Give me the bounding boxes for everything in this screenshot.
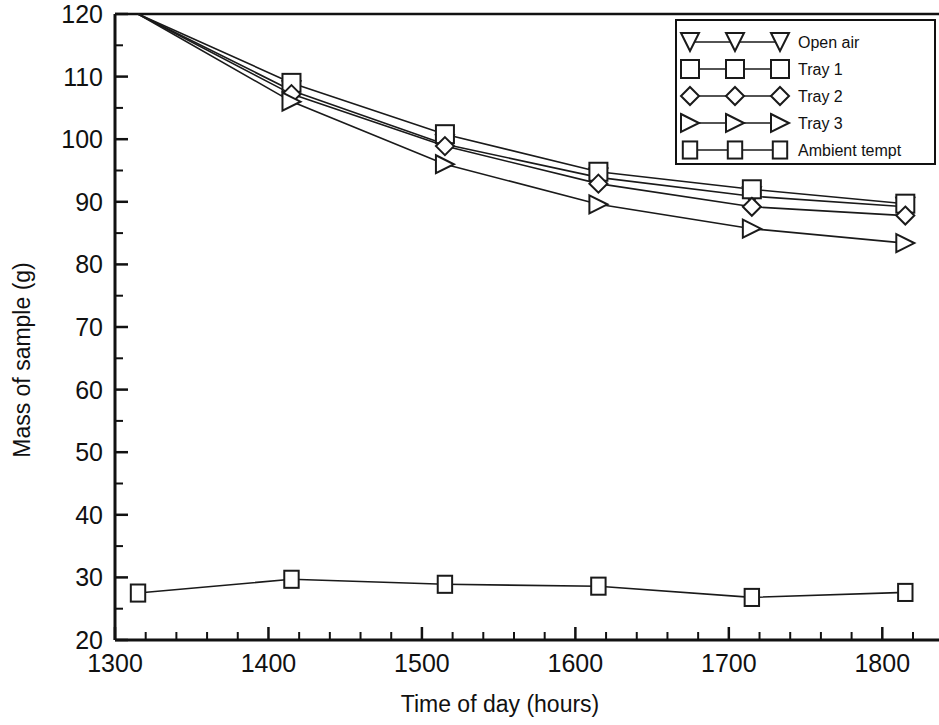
data-point-diamond — [743, 198, 761, 216]
y-tick-label: 40 — [75, 501, 103, 529]
data-point-triangle-right — [743, 220, 761, 238]
data-point-square — [771, 60, 789, 78]
legend-label: Ambient tempt — [798, 142, 902, 159]
y-axis-title: Mass of sample (g) — [9, 262, 35, 458]
data-point-square-small — [683, 141, 697, 158]
legend-label: Open air — [798, 34, 860, 51]
x-tick-label: 1600 — [548, 649, 604, 677]
data-point-square-small — [284, 571, 298, 588]
data-point-square-small — [898, 584, 912, 601]
y-tick-label: 80 — [75, 250, 103, 278]
data-point-square-small — [591, 578, 605, 595]
x-tick-label: 1800 — [854, 649, 910, 677]
data-point-square-small — [438, 576, 452, 593]
legend: Open airTray 1Tray 2Tray 3Ambient tempt — [676, 20, 935, 164]
data-point-square — [726, 60, 744, 78]
y-tick-label: 70 — [75, 313, 103, 341]
chart-container: 2030405060708090100110120130014001500160… — [0, 0, 939, 725]
legend-label: Tray 2 — [798, 88, 843, 105]
data-point-triangle-right — [589, 195, 607, 213]
y-tick-label: 100 — [61, 125, 103, 153]
data-point-triangle-right — [896, 234, 914, 252]
x-tick-label: 1400 — [241, 649, 297, 677]
x-axis-title: Time of day (hours) — [401, 691, 600, 717]
mass-vs-time-line-chart: 2030405060708090100110120130014001500160… — [0, 0, 939, 725]
legend-label: Tray 1 — [798, 61, 843, 78]
y-tick-label: 90 — [75, 188, 103, 216]
data-point-square-small — [773, 141, 787, 158]
data-point-square-small — [728, 141, 742, 158]
series-ambient-tempt — [131, 571, 913, 606]
y-tick-label: 120 — [61, 0, 103, 28]
x-tick-label: 1700 — [701, 649, 757, 677]
data-point-triangle-right — [436, 155, 454, 173]
data-point-square — [743, 180, 761, 198]
x-tick-label: 1500 — [394, 649, 450, 677]
y-tick-label: 60 — [75, 376, 103, 404]
data-point-square — [681, 60, 699, 78]
data-point-square-small — [131, 585, 145, 602]
y-tick-label: 110 — [63, 63, 103, 91]
data-point-square-small — [745, 589, 759, 606]
x-tick-label: 1300 — [87, 649, 143, 677]
y-tick-label: 30 — [75, 563, 103, 591]
y-tick-label: 50 — [75, 438, 103, 466]
legend-label: Tray 3 — [798, 115, 843, 132]
